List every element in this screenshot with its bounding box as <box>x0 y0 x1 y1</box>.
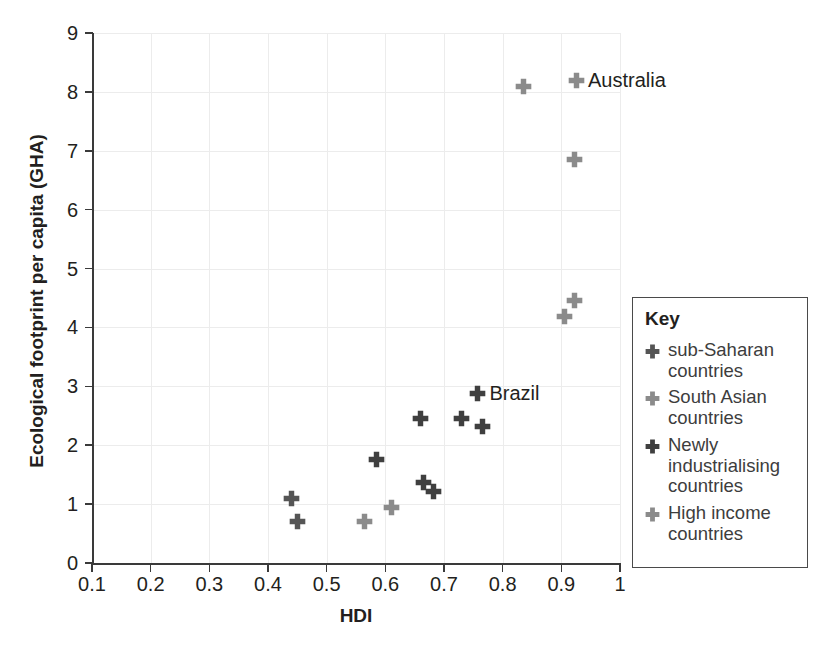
legend-plus-marker-icon <box>645 507 660 522</box>
gridline-horizontal <box>92 269 620 270</box>
scatter-chart-figure: 0123456789 0.10.20.30.40.50.60.70.80.91 … <box>0 0 820 658</box>
data-point-marker <box>356 513 373 530</box>
gridline-vertical <box>268 33 269 563</box>
x-axis-tick-mark <box>502 564 504 572</box>
data-point-marker <box>474 418 491 435</box>
plot-area <box>92 33 620 563</box>
data-point-marker <box>283 490 300 507</box>
x-axis-tick-mark <box>91 564 93 572</box>
data-point-marker <box>368 451 385 468</box>
gridline-horizontal <box>92 33 620 34</box>
data-point-marker <box>469 385 486 402</box>
y-axis-tick-mark <box>85 503 93 505</box>
legend-plus-marker-icon <box>645 344 660 359</box>
x-axis-tick-mark <box>267 564 269 572</box>
gridline-horizontal <box>92 504 620 505</box>
gridline-vertical <box>444 33 445 563</box>
y-axis-line <box>92 33 94 564</box>
legend-item-label: Newly industrialising countries <box>668 435 799 497</box>
y-axis-tick-mark <box>85 150 93 152</box>
gridline-horizontal <box>92 210 620 211</box>
legend-item-label: South Asian countries <box>668 387 799 428</box>
x-axis-tick-mark <box>561 564 563 572</box>
legend-item[interactable]: sub-Saharan countries <box>645 340 799 381</box>
data-point-marker <box>425 483 442 500</box>
x-axis-tick-mark <box>443 564 445 572</box>
y-axis-tick-mark <box>85 209 93 211</box>
legend-item-label: sub-Saharan countries <box>668 340 799 381</box>
y-axis-tick-mark <box>85 268 93 270</box>
gridline-vertical <box>620 33 621 563</box>
x-axis-tick-mark <box>326 564 328 572</box>
gridline-vertical <box>503 33 504 563</box>
x-axis-tick-mark <box>150 564 152 572</box>
data-point-marker <box>412 410 429 427</box>
legend-item[interactable]: South Asian countries <box>645 387 799 428</box>
gridline-vertical <box>561 33 562 563</box>
y-axis-tick-mark <box>85 444 93 446</box>
gridline-vertical <box>151 33 152 563</box>
x-axis-title: HDI <box>92 605 620 627</box>
data-point-label: Brazil <box>489 383 539 403</box>
legend-title: Key <box>645 308 799 330</box>
gridline-horizontal <box>92 151 620 152</box>
x-axis-tick-mark <box>619 564 621 572</box>
data-point-marker <box>566 292 583 309</box>
y-axis-title: Ecological footprint per capita (GHA) <box>26 41 48 561</box>
legend-item[interactable]: Newly industrialising countries <box>645 435 799 497</box>
y-axis-tick-mark <box>85 32 93 34</box>
data-point-marker <box>383 499 400 516</box>
legend-item-label: High income countries <box>668 503 799 544</box>
data-point-marker <box>568 72 585 89</box>
data-point-marker <box>566 151 583 168</box>
gridline-horizontal <box>92 386 620 387</box>
gridline-horizontal <box>92 92 620 93</box>
legend-items: sub-Saharan countriesSouth Asian countri… <box>645 340 799 544</box>
x-axis-line <box>92 563 621 565</box>
data-point-marker <box>453 410 470 427</box>
data-point-marker <box>289 513 306 530</box>
x-axis-tick-label: 1 <box>585 573 655 597</box>
gridline-vertical <box>385 33 386 563</box>
y-axis-tick-mark <box>85 91 93 93</box>
gridline-vertical <box>209 33 210 563</box>
x-tick-text: 1 <box>585 573 655 596</box>
gridline-vertical <box>327 33 328 563</box>
x-axis-tick-mark <box>209 564 211 572</box>
data-point-label: Australia <box>588 70 666 90</box>
gridline-horizontal <box>92 445 620 446</box>
gridline-horizontal <box>92 327 620 328</box>
legend-plus-marker-icon <box>645 391 660 406</box>
y-tick-text: 9 <box>40 23 78 43</box>
legend-plus-marker-icon <box>645 439 660 454</box>
legend-item[interactable]: High income countries <box>645 503 799 544</box>
y-axis-tick-mark <box>85 327 93 329</box>
y-axis-tick-label: 9 <box>40 23 78 43</box>
x-axis-tick-mark <box>385 564 387 572</box>
y-axis-tick-mark <box>85 386 93 388</box>
data-point-marker <box>556 308 573 325</box>
legend-box: Key sub-Saharan countriesSouth Asian cou… <box>632 297 808 568</box>
data-point-marker <box>515 78 532 95</box>
